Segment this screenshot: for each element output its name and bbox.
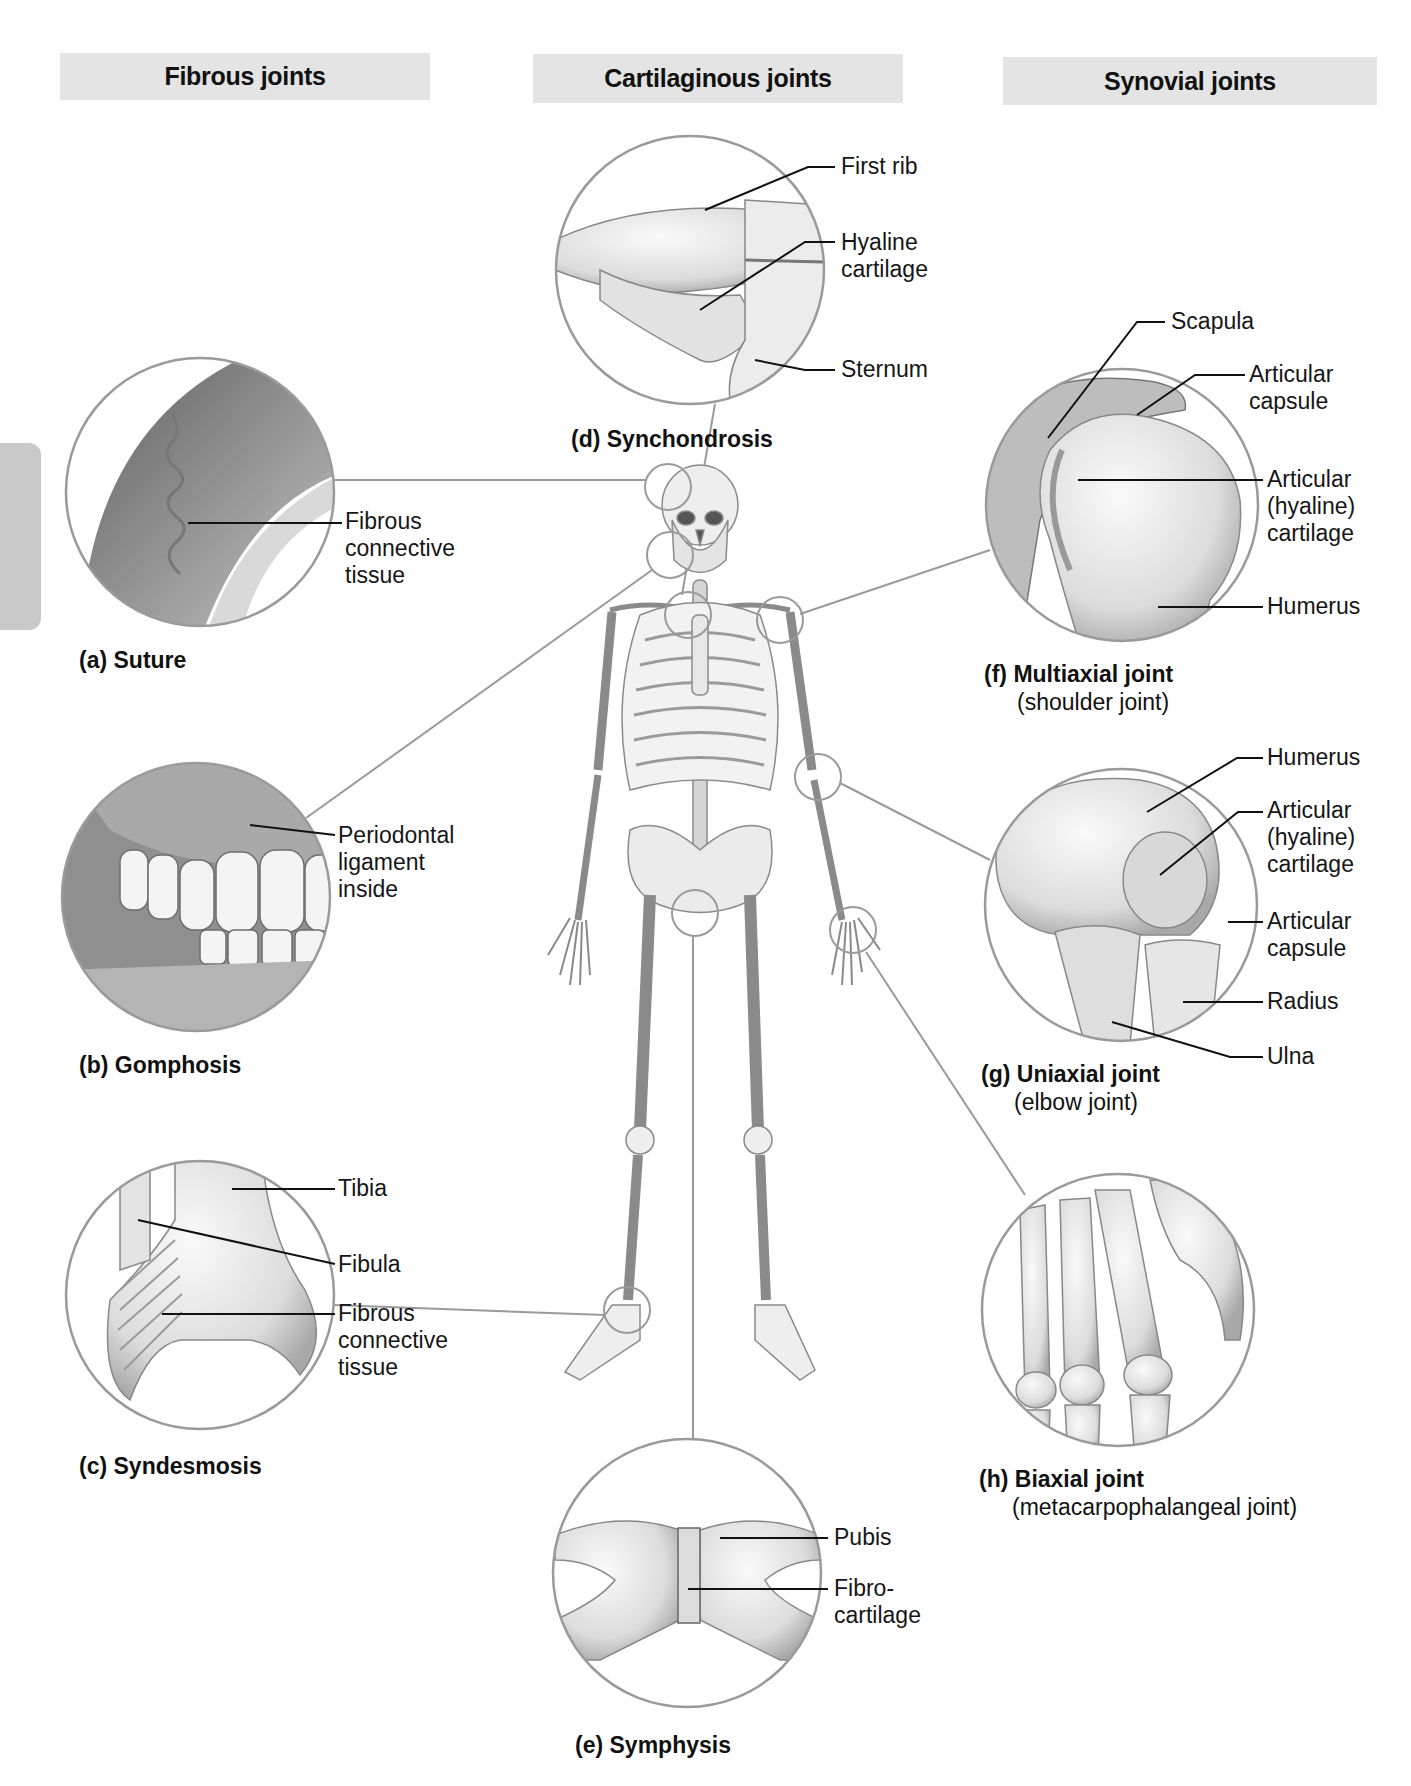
suture-detail-circle xyxy=(60,350,350,640)
label-line: cartilage xyxy=(1267,851,1355,878)
label-line: Articular xyxy=(1267,908,1351,935)
label-line: Fibrous xyxy=(345,508,455,535)
label-first-rib: First rib xyxy=(841,153,918,180)
label-sternum: Sternum xyxy=(841,356,928,383)
label-humerus-shoulder: Humerus xyxy=(1267,593,1360,620)
label-periodontal-ligament: Periodontal ligament inside xyxy=(338,822,454,903)
label-line: Hyaline xyxy=(841,229,928,256)
label-line: Articular xyxy=(1267,466,1355,493)
caption-syndesmosis: (c) Syndesmosis xyxy=(79,1452,262,1480)
label-line: Fibro- xyxy=(834,1575,921,1602)
label-hyaline-cartilage: Hyaline cartilage xyxy=(841,229,928,283)
label-line: cartilage xyxy=(841,256,928,283)
label-scapula: Scapula xyxy=(1171,308,1254,335)
caption-gomphosis: (b) Gomphosis xyxy=(79,1051,241,1079)
symphysis-detail-circle xyxy=(550,1435,825,1715)
label-suture-fibrous-tissue: Fibrous connective tissue xyxy=(345,508,455,589)
caption-letter: (b) xyxy=(79,1052,108,1078)
label-line: cartilage xyxy=(834,1602,921,1629)
label-line: inside xyxy=(338,876,454,903)
label-articular-capsule-elbow: Articular capsule xyxy=(1267,908,1351,962)
label-line: connective xyxy=(338,1327,448,1354)
caption-subtitle: (shoulder joint) xyxy=(984,688,1173,716)
label-line: (hyaline) xyxy=(1267,824,1355,851)
label-articular-cartilage-elbow: Articular (hyaline) cartilage xyxy=(1267,797,1355,878)
caption-title: Syndesmosis xyxy=(114,1453,262,1479)
label-articular-capsule-shoulder: Articular capsule xyxy=(1249,361,1333,415)
label-line: capsule xyxy=(1249,388,1333,415)
caption-letter: (c) xyxy=(79,1453,107,1479)
label-line: connective xyxy=(345,535,455,562)
label-fibula: Fibula xyxy=(338,1251,401,1278)
label-articular-cartilage-shoulder: Articular (hyaline) cartilage xyxy=(1267,466,1355,547)
skeleton-figure xyxy=(548,465,880,1380)
label-line: tissue xyxy=(338,1354,448,1381)
label-line: capsule xyxy=(1267,935,1351,962)
label-tibia: Tibia xyxy=(338,1175,387,1202)
caption-biaxial-joint: (h) Biaxial joint (metacarpophalangeal j… xyxy=(979,1465,1297,1521)
label-line: (hyaline) xyxy=(1267,493,1355,520)
label-line: tissue xyxy=(345,562,455,589)
caption-multiaxial-joint: (f) Multiaxial joint (shoulder joint) xyxy=(984,660,1173,716)
label-syndesmosis-fibrous-tissue: Fibrous connective tissue xyxy=(338,1300,448,1381)
label-line: Articular xyxy=(1267,797,1355,824)
label-fibrocartilage: Fibro- cartilage xyxy=(834,1575,921,1629)
caption-subtitle: (elbow joint) xyxy=(981,1088,1160,1116)
caption-synchondrosis: (d) Synchondrosis xyxy=(571,425,773,453)
caption-title: Suture xyxy=(114,647,187,673)
caption-letter: (h) xyxy=(979,1466,1008,1492)
label-line: Fibrous xyxy=(338,1300,448,1327)
caption-title: Gomphosis xyxy=(115,1052,242,1078)
label-line: ligament xyxy=(338,849,454,876)
label-line: Periodontal xyxy=(338,822,454,849)
caption-title: Synchondrosis xyxy=(607,426,773,452)
caption-uniaxial-joint: (g) Uniaxial joint (elbow joint) xyxy=(981,1060,1160,1116)
label-pubis: Pubis xyxy=(834,1524,892,1551)
label-line: Articular xyxy=(1249,361,1333,388)
caption-letter: (g) xyxy=(981,1061,1010,1087)
caption-letter: (f) xyxy=(984,661,1007,687)
label-line: cartilage xyxy=(1267,520,1355,547)
caption-title: Multiaxial joint xyxy=(1013,661,1173,687)
synchondrosis-detail-circle xyxy=(550,130,830,420)
caption-symphysis: (e) Symphysis xyxy=(575,1731,731,1759)
syndesmosis-detail-circle xyxy=(60,1155,350,1445)
caption-title: Symphysis xyxy=(610,1732,731,1758)
label-humerus-elbow: Humerus xyxy=(1267,744,1360,771)
caption-letter: (e) xyxy=(575,1732,603,1758)
caption-letter: (d) xyxy=(571,426,600,452)
caption-subtitle: (metacarpophalangeal joint) xyxy=(979,1493,1297,1521)
label-ulna: Ulna xyxy=(1267,1043,1314,1070)
caption-letter: (a) xyxy=(79,647,107,673)
label-radius: Radius xyxy=(1267,988,1339,1015)
caption-title: Biaxial joint xyxy=(1015,1466,1144,1492)
caption-suture: (a) Suture xyxy=(79,646,186,674)
caption-title: Uniaxial joint xyxy=(1017,1061,1160,1087)
